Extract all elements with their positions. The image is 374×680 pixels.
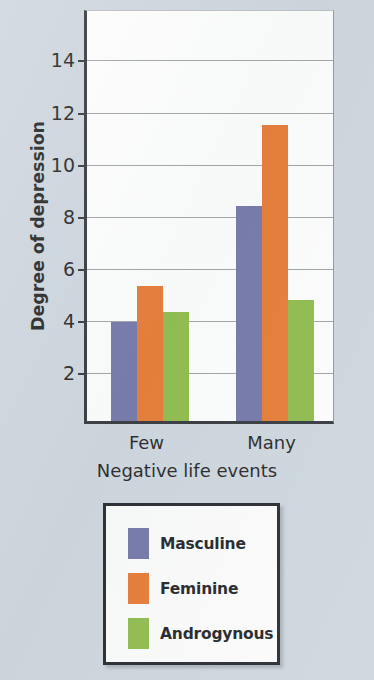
y-tick-label: 10 — [51, 154, 75, 176]
y-tick-mark — [78, 321, 87, 323]
y-tick-mark — [78, 165, 87, 167]
y-axis-title: Degree of depression — [28, 96, 48, 356]
gridline — [87, 60, 333, 61]
y-tick-label: 2 — [63, 362, 75, 384]
y-tick-mark — [78, 217, 87, 219]
bar-chart-figure: Degree of depression 2468101214 FewMany … — [0, 0, 374, 680]
legend-label-feminine: Feminine — [160, 580, 238, 598]
y-tick-label: 12 — [51, 102, 75, 124]
bar-masculine-few — [111, 322, 137, 421]
plot-area: 2468101214 — [84, 10, 334, 424]
y-tick-label: 14 — [51, 49, 75, 71]
gridline — [87, 165, 333, 166]
y-tick-mark — [78, 60, 87, 62]
y-tick-mark — [78, 269, 87, 271]
bar-masculine-many — [236, 206, 262, 421]
legend-item-feminine: Feminine — [128, 573, 238, 604]
chart-legend: MasculineFeminineAndrogynous — [103, 503, 280, 665]
legend-swatch-feminine — [128, 573, 149, 604]
x-tick-label-few: Few — [129, 432, 164, 453]
legend-item-androgynous: Androgynous — [128, 618, 273, 649]
legend-swatch-androgynous — [128, 618, 149, 649]
legend-item-masculine: Masculine — [128, 528, 246, 559]
x-tick-label-many: Many — [247, 432, 296, 453]
y-tick-mark — [78, 113, 87, 115]
bar-androgynous-few — [163, 312, 189, 421]
y-tick-label: 4 — [63, 310, 75, 332]
gridline — [87, 113, 333, 114]
y-tick-label: 6 — [63, 258, 75, 280]
bar-feminine-few — [137, 286, 163, 421]
x-axis-title: Negative life events — [0, 460, 374, 481]
y-tick-label: 8 — [63, 206, 75, 228]
legend-swatch-masculine — [128, 528, 149, 559]
legend-label-androgynous: Androgynous — [160, 625, 273, 643]
bar-androgynous-many — [288, 300, 314, 421]
y-tick-mark — [78, 373, 87, 375]
gridline — [87, 217, 333, 218]
bar-feminine-many — [262, 125, 288, 421]
legend-label-masculine: Masculine — [160, 535, 246, 553]
gridline — [87, 269, 333, 270]
